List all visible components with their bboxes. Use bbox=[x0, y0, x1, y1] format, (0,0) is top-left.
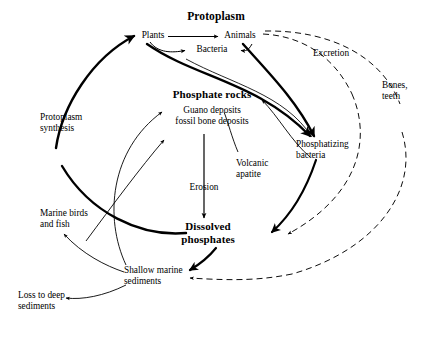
edge-shallow-sediments-to-marine-birds bbox=[64, 234, 124, 272]
edge-protoplasm-synthesis-to-plants bbox=[56, 36, 134, 148]
edge-excretion-to-dissolved-phosphates bbox=[288, 94, 360, 234]
edge-shallow-sediments-to-phosphate-rocks bbox=[114, 112, 162, 265]
edge-shallow-sediments-to-loss-deep-sediments bbox=[66, 285, 126, 298]
phosphorus-cycle-diagram: Protoplasm Plants Bacteria Animals Excre… bbox=[0, 0, 431, 338]
edge-group-marine bbox=[64, 234, 216, 298]
edge-group-dashed-bones bbox=[190, 31, 406, 280]
edge-group-to-phosphatizing bbox=[147, 44, 314, 137]
edge-group-rocks bbox=[86, 112, 238, 265]
edge-dissolved-phosphates-to-shallow-sediments bbox=[190, 248, 216, 270]
edge-animals-to-excretion bbox=[263, 34, 352, 94]
edge-dissolved-to-protoplasm-synthesis bbox=[62, 166, 186, 233]
edge-bones-teeth-path bbox=[292, 132, 406, 274]
edge-bones-teeth-to-shallow-sediments bbox=[190, 274, 292, 280]
edge-volcanic-apatite-line bbox=[224, 112, 238, 152]
edge-plants-to-phosphatizing-bacteria bbox=[147, 44, 310, 136]
edge-group-protoplasm bbox=[150, 37, 252, 52]
edge-bacteria-to-phosphatizing-bacteria bbox=[186, 59, 312, 137]
edge-marine-birds-to-guano-deposits bbox=[86, 140, 164, 241]
edge-group-uptake bbox=[56, 36, 186, 233]
diagram-canvas bbox=[0, 0, 431, 338]
edge-group-phosphatizing-out bbox=[262, 100, 316, 232]
